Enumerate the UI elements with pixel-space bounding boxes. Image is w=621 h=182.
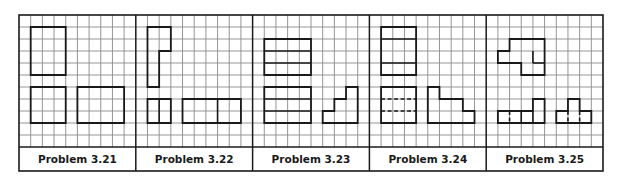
panel-label: Problem 3.25 xyxy=(505,153,584,165)
panel-label: Problem 3.23 xyxy=(272,153,351,165)
panel-label: Problem 3.21 xyxy=(38,153,117,165)
panel-label: Problem 3.22 xyxy=(155,153,234,165)
orthographic-projection-figure: Problem 3.21Problem 3.22Problem 3.23Prob… xyxy=(0,0,621,182)
panel-label: Problem 3.24 xyxy=(388,153,467,165)
